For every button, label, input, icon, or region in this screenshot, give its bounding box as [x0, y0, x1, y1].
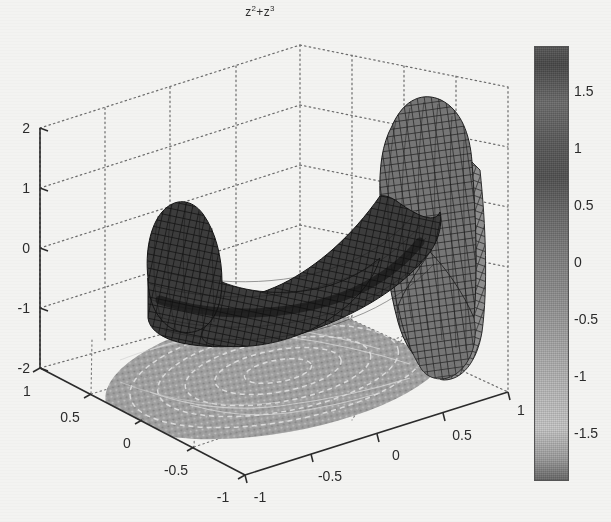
colorbar-gradient — [535, 47, 568, 480]
colorbar-tick-label: 1 — [574, 140, 582, 156]
plot-svg: 2 1 0 -1 -2 1 0.5 0 -0.5 -1 -1 -0.5 0 0.… — [0, 0, 611, 522]
colorbar-tick-label: -0.5 — [574, 311, 598, 327]
z-tick-label: 2 — [22, 120, 30, 136]
z-tick-label: -1 — [18, 300, 31, 316]
z-tick-labels: 2 1 0 -1 -2 — [18, 120, 31, 376]
colorbar-tick-label: -1 — [574, 368, 587, 384]
z-tick-label: -2 — [18, 360, 31, 376]
z-tick-label: 1 — [22, 180, 30, 196]
colorbar-tick-label: 0.5 — [574, 197, 594, 213]
colorbar-tick-label: 1.5 — [574, 83, 594, 99]
x-tick-label: -0.5 — [318, 468, 342, 484]
colorbar-tick-label: 0 — [574, 254, 582, 270]
colorbar-labels: 1.5 1 0.5 0 -0.5 -1 -1.5 — [574, 83, 598, 441]
x-tick-label: 0.5 — [452, 427, 472, 443]
z-tick-label: 0 — [22, 240, 30, 256]
colorbar — [534, 46, 569, 481]
y-tick-label: -0.5 — [164, 462, 188, 478]
y-tick-label: 0 — [123, 435, 131, 451]
x-tick-label: -1 — [254, 489, 267, 505]
x-tick-label: 0 — [392, 447, 400, 463]
y-tick-label: 0.5 — [60, 409, 80, 425]
y-tick-label: 1 — [23, 383, 31, 399]
colorbar-tick-label: -1.5 — [574, 425, 598, 441]
figure-canvas: z2+z3 — [0, 0, 611, 522]
x-tick-label: 1 — [517, 402, 525, 418]
y-tick-label: -1 — [217, 489, 230, 505]
